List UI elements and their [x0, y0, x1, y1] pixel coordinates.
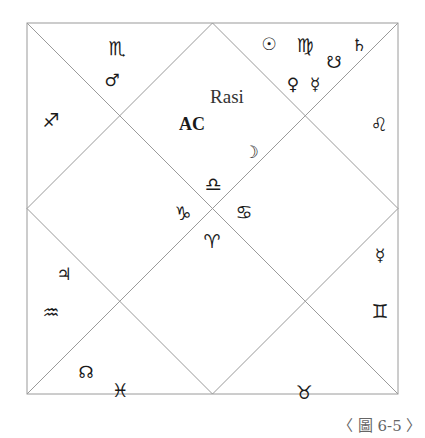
- rasi-chart-grid: [0, 0, 425, 438]
- aquarius-icon: ♒: [42, 303, 59, 322]
- sun-icon: ☉: [261, 36, 276, 53]
- capricorn-icon: ♑: [174, 204, 191, 223]
- moon-icon: ☽: [243, 144, 258, 161]
- mars-icon: ♂: [104, 72, 119, 89]
- virgo-icon: ♍: [296, 36, 313, 55]
- leo-icon: ♌: [370, 115, 387, 134]
- cancer-icon: ♋: [235, 203, 252, 222]
- ascendant-label: AC: [179, 115, 205, 133]
- mercury-icon-house10: ☿: [375, 247, 385, 264]
- ketu-icon: ☋: [326, 54, 341, 71]
- aries-icon: ♈: [203, 232, 220, 251]
- libra-icon: ♎: [204, 175, 221, 194]
- gemini-icon: ♊: [371, 302, 388, 321]
- sagittarius-icon: ♐: [42, 111, 59, 130]
- jupiter-icon: ♃: [56, 266, 71, 283]
- figure-caption: 〈 圖 6-5 〉: [338, 414, 421, 435]
- rahu-icon: ☊: [78, 364, 93, 381]
- chart-title: Rasi: [210, 87, 244, 106]
- taurus-icon: ♉: [295, 383, 312, 402]
- pisces-icon: ♓: [111, 381, 128, 400]
- venus-icon: ♀: [287, 76, 299, 93]
- mercury-icon-house12: ☿: [310, 76, 320, 93]
- saturn-icon: ♄: [351, 37, 366, 54]
- scorpio-icon: ♏: [108, 39, 125, 58]
